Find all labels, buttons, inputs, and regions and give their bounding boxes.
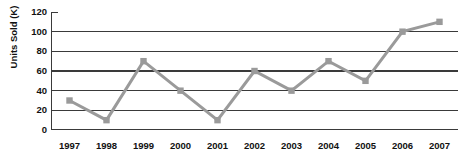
gridlines [51,32,458,130]
data-point-marker [362,78,368,84]
data-point-marker [288,87,294,93]
y-tick-label: 0 [14,124,47,136]
data-point-marker [325,58,331,64]
y-tick-label: 120 [14,6,47,18]
y-tick-label: 80 [14,45,47,57]
data-point-marker [251,68,257,74]
y-tick-label: 60 [14,65,47,77]
data-point-marker [436,19,442,25]
data-point-marker [140,58,146,64]
plot-svg [51,12,458,130]
y-axis-tick-labels: 020406080100120 [14,6,47,132]
data-point-marker [66,97,72,103]
data-point-marker [399,28,405,34]
x-axis-tick-labels: 1997199819992000200120022003200420052006… [51,139,458,155]
data-point-marker [103,117,109,123]
data-point-marker [177,87,183,93]
x-tick-label: 2007 [418,139,462,152]
y-tick-label: 40 [14,85,47,97]
y-tick-label: 20 [14,104,47,116]
line-chart-figure: Units Sold (K) 020406080100120 199719981… [0,0,465,162]
plot-area [51,12,458,130]
chart-title [0,0,465,3]
y-tick-label: 100 [14,26,47,38]
data-point-marker [214,117,220,123]
